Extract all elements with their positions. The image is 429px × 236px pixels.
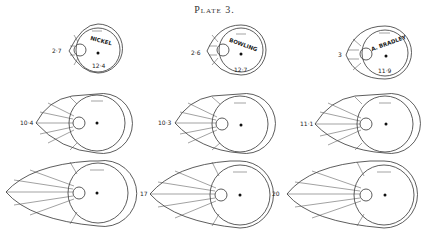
diagram-nickel: 2·7 NICKEL 12·4 — [52, 24, 123, 73]
diagram-row3-2: 17 — [140, 161, 274, 228]
diagram-bowling: 2·6 BOWLING 12·7 — [191, 25, 266, 75]
ball-value: 11·9 — [378, 67, 392, 74]
bowler-name: A. BRADLEY — [370, 34, 408, 53]
diagram-row2-1: 10·4 — [20, 94, 132, 154]
bowler-name: BOWLING — [228, 37, 258, 53]
plate-diagrams: 2·7 NICKEL 12·4 2·6 BOWLING 12·7 3 A. BR… — [0, 0, 429, 236]
diagram-row3-3: 20 — [272, 161, 418, 228]
diagram-row3-1 — [6, 161, 137, 227]
left-value: 11·1 — [300, 120, 314, 127]
ball-value: 12·7 — [234, 66, 248, 73]
bowler-name: NICKEL — [90, 35, 113, 47]
left-value: 10·3 — [158, 119, 172, 126]
left-value: 2·7 — [52, 47, 62, 54]
diagram-bradley: 3 A. BRADLEY 11·9 — [338, 26, 412, 79]
diagram-row2-3: 11·1 — [300, 94, 420, 154]
left-value: 2·6 — [191, 49, 201, 56]
left-value: 17 — [140, 190, 148, 197]
diagram-row2-2: 10·3 — [158, 94, 275, 154]
left-value: 3 — [338, 51, 342, 58]
left-value: 20 — [272, 190, 280, 197]
left-value: 10·4 — [20, 119, 34, 126]
ball-value: 12·4 — [92, 62, 106, 69]
